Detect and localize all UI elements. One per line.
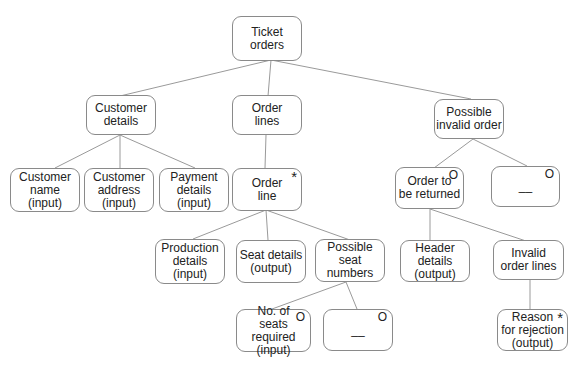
node-label: Order line	[252, 177, 283, 203]
node-possible-invalid-order: Possible invalid order	[434, 99, 504, 139]
node-label: Production details (input)	[161, 242, 218, 281]
selection-marker: O	[449, 169, 458, 181]
node-label: Customer address (input)	[93, 171, 145, 210]
selection-marker: O	[296, 311, 305, 323]
node-label: Possible invalid order	[436, 106, 501, 132]
node-order-lines: Order lines	[232, 95, 302, 135]
node-order-line: Order line *	[232, 168, 302, 211]
node-label: Possible seat numbers	[316, 241, 384, 280]
node-label: Seat details (output)	[240, 249, 303, 275]
node-label: Reason for rejection (output)	[501, 311, 564, 350]
node-ticket-orders: Ticket orders	[232, 16, 302, 61]
node-label: Order lines	[252, 102, 283, 128]
selection-marker: O	[378, 311, 387, 323]
node-empty-option-1: __ O	[491, 166, 560, 207]
node-header-details: Header details (output)	[400, 240, 470, 282]
node-production-details: Production details (input)	[155, 239, 225, 284]
node-label: Customer name (input)	[19, 171, 71, 210]
node-customer-address: Customer address (input)	[84, 168, 154, 212]
node-customer-details: Customer details	[86, 95, 156, 135]
node-label: Ticket orders	[250, 26, 284, 52]
node-label: Customer details	[95, 102, 147, 128]
node-invalid-order-lines: Invalid order lines	[493, 240, 564, 280]
node-customer-name: Customer name (input)	[10, 168, 80, 212]
node-order-to-be-returned: Order to be returned O	[395, 167, 464, 209]
node-seat-details: Seat details (output)	[236, 240, 306, 283]
node-empty-option-2: __ O	[323, 309, 393, 351]
node-label: __	[351, 324, 364, 337]
node-possible-seat-numbers: Possible seat numbers	[315, 239, 385, 282]
node-label: __	[519, 180, 532, 193]
node-reason-for-rejection: Reason for rejection (output) *	[497, 309, 568, 351]
node-label: Header details (output)	[414, 242, 455, 281]
iteration-marker: *	[557, 312, 563, 324]
selection-marker: O	[545, 168, 554, 180]
node-no-of-seats-required: No. of seats required (input) O	[236, 309, 311, 352]
node-label: Invalid order lines	[500, 247, 556, 273]
iteration-marker: *	[291, 171, 297, 183]
node-label: Payment details (input)	[170, 171, 217, 210]
node-payment-details: Payment details (input)	[159, 168, 229, 212]
